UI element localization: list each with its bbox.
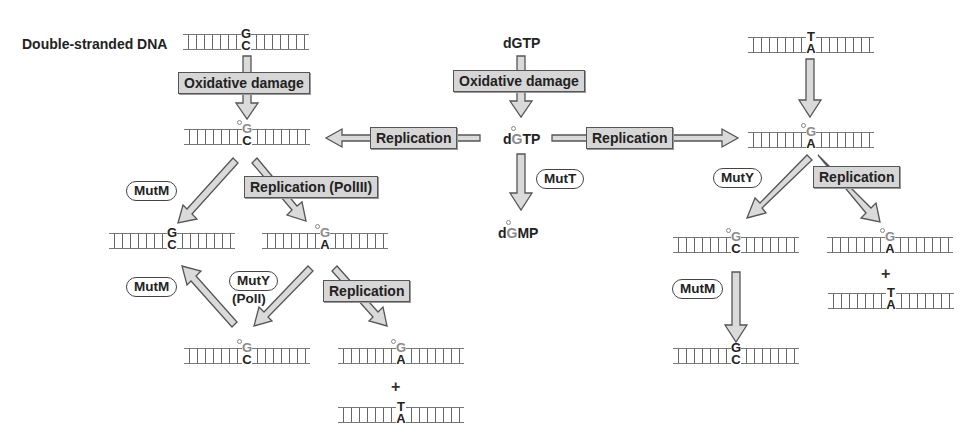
oxidized-g: G	[512, 131, 523, 147]
base-bottom: C	[730, 354, 742, 365]
enzyme-mutm-left-top: MutM	[126, 181, 177, 201]
dna-repaired-gc-left: G C	[109, 230, 235, 252]
base-bottom: A	[885, 299, 897, 310]
dna-oxog-a-left-bottom: G A	[338, 345, 464, 367]
replication-box-left-bottom: Replication	[323, 280, 410, 302]
base-bottom: A	[884, 243, 896, 254]
base-bottom: A	[395, 413, 407, 424]
dna-oxog-c-left-bottom: G C	[184, 345, 310, 367]
base-bottom: C	[730, 243, 742, 254]
enzyme-muty-left: MutY	[229, 271, 278, 291]
dna-oxog-a-right: G A	[748, 129, 874, 151]
replication-box-right: Replication	[586, 127, 673, 149]
prefix: d	[498, 225, 507, 241]
base-bottom: C	[241, 135, 253, 146]
replication-box-right-branch: Replication	[813, 166, 900, 188]
dna-oxog-a-left: G A	[262, 230, 388, 252]
suffix: TP	[522, 131, 540, 147]
replication-polIII-box: Replication (PolIII)	[244, 176, 378, 198]
oxo-dgtp-label: dGTP	[503, 131, 540, 147]
arrow-down-mutt	[510, 154, 532, 210]
plus-sign-right: +	[881, 265, 890, 283]
base-bottom: A	[319, 239, 331, 250]
arrow-down-mutm-right	[725, 272, 747, 342]
dna-start-gc: G C	[183, 31, 309, 53]
oxidized-g: G	[507, 225, 518, 241]
enzyme-mutm-right: MutM	[672, 279, 723, 299]
arrow-mutm-to-gc-left	[178, 158, 238, 223]
prefix: d	[503, 131, 512, 147]
enzyme-mutm-left-bottom: MutM	[126, 277, 177, 297]
oxidative-damage-box-left: Oxidative damage	[178, 72, 310, 94]
base-bottom: C	[166, 239, 178, 250]
poli-label: (PolI)	[232, 292, 266, 306]
arrow-down-right-top	[799, 59, 821, 117]
dna-repaired-gc-right: G C	[673, 345, 799, 367]
oxidative-damage-box-center: Oxidative damage	[453, 70, 585, 92]
oxo-dgmp-label: dGMP	[498, 225, 538, 241]
mutm-muty-mutt-repair-diagram: Double-stranded DNA G C G C G C G A G C …	[0, 0, 972, 446]
dna-oxog-c-left: G C	[184, 126, 310, 148]
base-bottom: A	[395, 354, 407, 365]
enzyme-muty-right: MutY	[713, 168, 762, 188]
base-bottom: A	[805, 43, 817, 54]
base-bottom: C	[240, 40, 252, 51]
double-stranded-dna-label: Double-stranded DNA	[22, 37, 167, 51]
dna-ta-right-bottom: T A	[828, 290, 954, 312]
dna-start-ta-right: T A	[748, 34, 874, 56]
dgtp-label: dGTP	[503, 35, 540, 51]
base-bottom: C	[241, 354, 253, 365]
dna-oxog-c-right: G C	[673, 234, 799, 256]
base-bottom: A	[805, 138, 817, 149]
suffix: MP	[517, 225, 538, 241]
replication-box-left: Replication	[370, 127, 457, 149]
dna-oxog-a-right-bottom: G A	[827, 234, 953, 256]
arrow-mutm-to-gc-up	[182, 266, 237, 327]
plus-sign-left: +	[391, 378, 400, 396]
enzyme-mutt: MutT	[536, 169, 584, 189]
arrows-layer	[0, 0, 972, 446]
dna-ta-left-bottom: T A	[338, 404, 464, 426]
